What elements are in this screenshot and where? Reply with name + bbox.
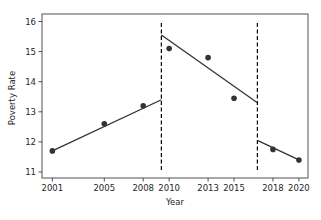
x-tick-label: 2001 bbox=[42, 183, 64, 193]
data-point bbox=[140, 103, 146, 109]
y-tick-label: 13 bbox=[25, 107, 36, 117]
data-point bbox=[166, 46, 172, 52]
x-tick-label: 2020 bbox=[288, 183, 310, 193]
fit-line bbox=[161, 35, 257, 103]
y-tick-label: 15 bbox=[25, 47, 36, 57]
y-tick-label: 12 bbox=[25, 137, 36, 147]
x-tick-label: 2018 bbox=[262, 183, 284, 193]
x-axis-label: Year bbox=[165, 197, 185, 207]
x-tick-label: 2013 bbox=[197, 183, 219, 193]
y-tick-label: 11 bbox=[25, 167, 36, 177]
data-points bbox=[50, 46, 302, 163]
plot-area bbox=[42, 14, 308, 178]
y-axis: 111213141516 bbox=[25, 17, 42, 177]
fit-line bbox=[257, 140, 299, 160]
plot-frame bbox=[42, 14, 308, 178]
x-tick-label: 2015 bbox=[223, 183, 245, 193]
data-point bbox=[296, 157, 302, 163]
y-tick-label: 16 bbox=[25, 17, 36, 27]
x-tick-label: 2010 bbox=[158, 183, 180, 193]
poverty-rate-chart: 20012005200820102013201520182020 1112131… bbox=[0, 0, 321, 220]
data-point bbox=[50, 148, 56, 154]
x-tick-label: 2005 bbox=[93, 183, 115, 193]
data-point bbox=[270, 147, 276, 153]
y-axis-label: Poverty Rate bbox=[7, 71, 17, 125]
y-tick-label: 14 bbox=[25, 77, 36, 87]
data-point bbox=[231, 95, 237, 101]
x-axis: 20012005200820102013201520182020 bbox=[42, 178, 310, 193]
data-point bbox=[205, 55, 211, 61]
x-tick-label: 2008 bbox=[132, 183, 154, 193]
data-point bbox=[101, 121, 107, 127]
fit-lines bbox=[52, 35, 299, 160]
